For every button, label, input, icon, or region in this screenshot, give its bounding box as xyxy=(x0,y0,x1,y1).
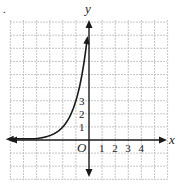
exponential-graph: . x y O 1234 123 xyxy=(0,0,177,184)
x-tick-label: 3 xyxy=(125,142,131,154)
x-tick-label: 1 xyxy=(99,142,105,154)
y-axis-bottom-arrow-icon xyxy=(86,169,93,177)
x-axis-right-arrow-icon xyxy=(159,137,167,144)
x-tick-label: 4 xyxy=(138,142,144,154)
y-tick-label: 2 xyxy=(79,108,85,120)
x-tick-labels: 1234 xyxy=(99,142,144,154)
y-axis-label: y xyxy=(83,1,91,16)
y-tick-labels: 123 xyxy=(79,95,85,133)
x-tick-label: 2 xyxy=(112,142,118,154)
origin-label: O xyxy=(77,140,87,155)
y-axis-top-arrow-icon xyxy=(86,20,93,28)
figure-marker: . xyxy=(3,3,6,15)
y-tick-label: 1 xyxy=(79,121,85,133)
x-axis-label: x xyxy=(168,132,175,147)
curve-left-arrow-icon xyxy=(6,136,14,143)
y-tick-label: 3 xyxy=(79,95,85,107)
